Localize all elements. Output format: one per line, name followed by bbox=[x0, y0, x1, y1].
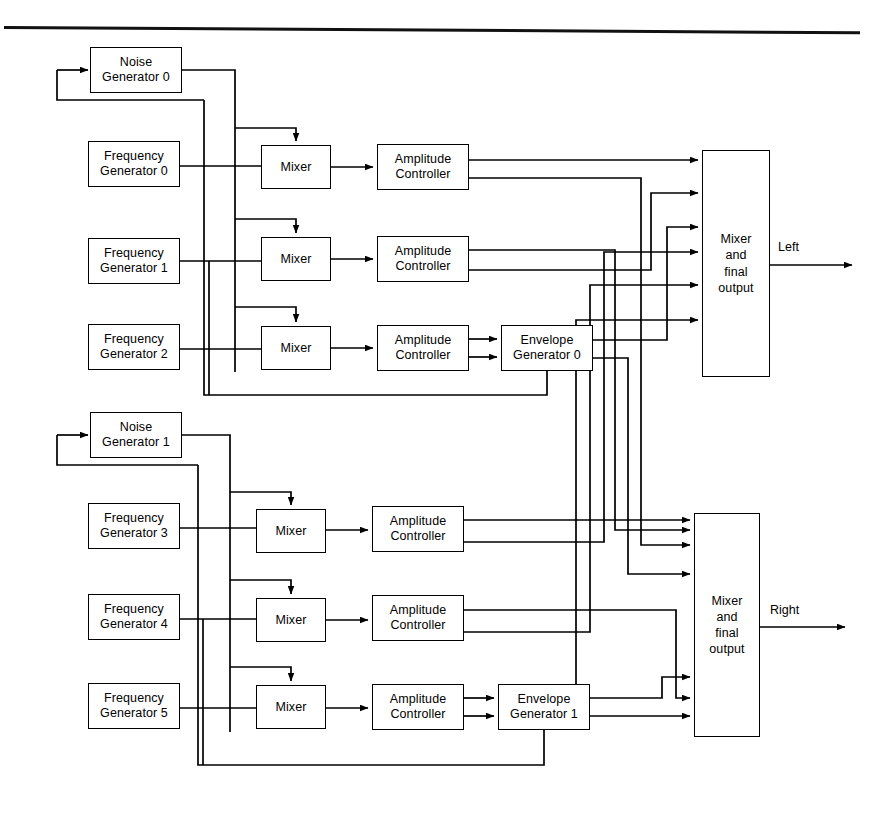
block-label-amp1: Amplitude Controller bbox=[393, 244, 454, 274]
block-label-noise0: Noise Generator 0 bbox=[100, 55, 172, 85]
block-noise0: Noise Generator 0 bbox=[90, 47, 182, 93]
block-label-noise1: Noise Generator 1 bbox=[100, 420, 172, 450]
wire-noise1-to-mixer3 bbox=[230, 492, 291, 505]
wire-noise1-to-mixer5 bbox=[230, 667, 291, 681]
block-freq3: Frequency Generator 3 bbox=[88, 503, 180, 549]
block-freq5: Frequency Generator 5 bbox=[88, 683, 180, 729]
block-freq2: Frequency Generator 2 bbox=[88, 324, 180, 370]
wire-env1-out-to-left-mixer bbox=[576, 320, 698, 716]
block-mix3: Mixer bbox=[256, 509, 326, 553]
block-freq4: Frequency Generator 4 bbox=[88, 594, 180, 640]
block-label-mix5: Mixer bbox=[273, 700, 308, 715]
wire-noise0-to-mixer1 bbox=[235, 219, 296, 233]
block-label-amp4: Amplitude Controller bbox=[388, 603, 449, 633]
wire-noise0-to-mixer2 bbox=[235, 307, 296, 322]
block-label-amp2: Amplitude Controller bbox=[393, 333, 454, 363]
wire-env0-feedback bbox=[204, 100, 547, 395]
block-label-amp0: Amplitude Controller bbox=[393, 152, 454, 182]
wire-amp3-out-b-to-left-mixer bbox=[464, 252, 698, 542]
block-label-mix3: Mixer bbox=[273, 524, 308, 539]
block-label-out0: Mixer and final output bbox=[716, 231, 755, 296]
block-label-mix0: Mixer bbox=[278, 160, 313, 175]
wire-env0-out-a-to-left-mixer bbox=[593, 227, 698, 340]
block-label-freq4: Frequency Generator 4 bbox=[98, 602, 170, 632]
block-freq1: Frequency Generator 1 bbox=[88, 238, 180, 284]
block-label-freq3: Frequency Generator 3 bbox=[98, 511, 170, 541]
block-label-freq0: Frequency Generator 0 bbox=[98, 149, 170, 179]
wire-amp1-out-b-to-right-mixer bbox=[469, 250, 690, 530]
block-out0: Mixer and final output bbox=[702, 150, 770, 377]
block-env0: Envelope Generator 0 bbox=[501, 325, 593, 371]
block-out1: Mixer and final output bbox=[694, 513, 760, 737]
wire-amp1-out-a-to-left-mixer bbox=[469, 193, 698, 270]
block-label-mix4: Mixer bbox=[273, 613, 308, 628]
wire-env1-feedback bbox=[198, 465, 544, 765]
wire-noise0-to-mixer0 bbox=[235, 128, 296, 141]
block-mix5: Mixer bbox=[256, 685, 326, 729]
block-label-amp5: Amplitude Controller bbox=[388, 692, 449, 722]
output-label-right: Right bbox=[770, 603, 799, 617]
wire-noise1-bus bbox=[182, 435, 230, 732]
block-amp5: Amplitude Controller bbox=[372, 684, 464, 730]
block-amp0: Amplitude Controller bbox=[377, 144, 469, 190]
block-mix2: Mixer bbox=[261, 326, 331, 370]
block-label-freq1: Frequency Generator 1 bbox=[98, 246, 170, 276]
block-label-env1: Envelope Generator 1 bbox=[508, 692, 580, 722]
block-diagram: Noise Generator 0Frequency Generator 0Fr… bbox=[0, 0, 883, 817]
block-label-out1: Mixer and final output bbox=[707, 593, 746, 658]
block-amp3: Amplitude Controller bbox=[372, 506, 464, 552]
block-label-mix1: Mixer bbox=[278, 252, 313, 267]
block-label-freq5: Frequency Generator 5 bbox=[98, 691, 170, 721]
block-mix1: Mixer bbox=[261, 237, 331, 281]
block-amp2: Amplitude Controller bbox=[377, 325, 469, 371]
block-label-amp3: Amplitude Controller bbox=[388, 514, 449, 544]
block-label-freq2: Frequency Generator 2 bbox=[98, 332, 170, 362]
block-label-mix2: Mixer bbox=[278, 341, 313, 356]
block-amp4: Amplitude Controller bbox=[372, 595, 464, 641]
block-noise1: Noise Generator 1 bbox=[90, 412, 182, 458]
output-label-left: Left bbox=[778, 240, 799, 254]
block-mix0: Mixer bbox=[261, 145, 331, 189]
block-mix4: Mixer bbox=[256, 598, 326, 642]
block-freq0: Frequency Generator 0 bbox=[88, 141, 180, 187]
wire-env1-out-a-to-right-mixer bbox=[590, 677, 690, 698]
block-amp1: Amplitude Controller bbox=[377, 236, 469, 282]
wire-noise1-to-mixer4 bbox=[230, 580, 291, 594]
block-label-env0: Envelope Generator 0 bbox=[511, 333, 583, 363]
block-env1: Envelope Generator 1 bbox=[498, 684, 590, 730]
